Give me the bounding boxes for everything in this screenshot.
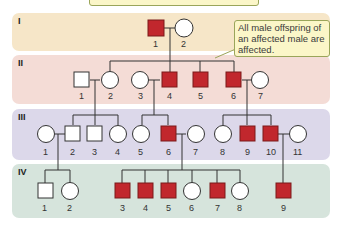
- svg-text:4: 4: [115, 147, 120, 157]
- svg-text:2: 2: [67, 203, 72, 213]
- svg-text:6: 6: [231, 91, 236, 101]
- svg-text:5: 5: [138, 147, 143, 157]
- svg-text:5: 5: [198, 91, 203, 101]
- svg-text:3: 3: [92, 147, 97, 157]
- svg-text:9: 9: [281, 203, 286, 213]
- svg-text:4: 4: [143, 203, 148, 213]
- individual-I-1: [148, 20, 164, 36]
- svg-text:10: 10: [266, 147, 276, 157]
- svg-text:7: 7: [193, 147, 198, 157]
- svg-text:8: 8: [237, 203, 242, 213]
- svg-text:1: 1: [153, 39, 158, 49]
- individual-I-2: [175, 19, 193, 37]
- svg-text:2: 2: [108, 91, 113, 101]
- svg-text:6: 6: [166, 147, 171, 157]
- svg-text:9: 9: [245, 147, 250, 157]
- svg-text:11: 11: [293, 147, 302, 157]
- svg-text:2: 2: [181, 39, 186, 49]
- svg-text:2: 2: [70, 147, 75, 157]
- svg-text:3: 3: [120, 203, 125, 213]
- svg-text:1: 1: [79, 91, 84, 101]
- svg-text:4: 4: [167, 91, 172, 101]
- svg-text:1: 1: [42, 203, 47, 213]
- svg-text:8: 8: [220, 147, 225, 157]
- svg-text:6: 6: [189, 203, 194, 213]
- svg-text:7: 7: [215, 203, 220, 213]
- svg-text:3: 3: [138, 91, 143, 101]
- svg-text:7: 7: [258, 91, 263, 101]
- svg-text:5: 5: [166, 203, 171, 213]
- svg-text:1: 1: [43, 147, 48, 157]
- callout-note: All male offspring of an affected male a…: [234, 20, 330, 57]
